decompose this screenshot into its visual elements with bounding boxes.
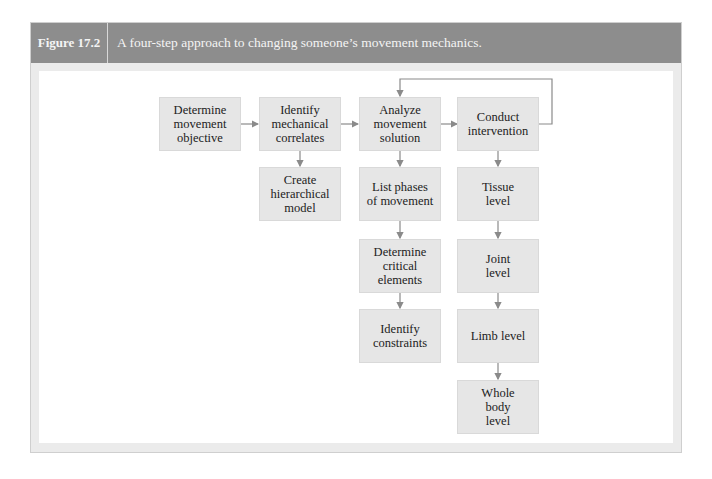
node-whole-body-level: Wholebodylevel	[458, 381, 538, 433]
node-conduct-intervention: Conductintervention	[458, 98, 538, 150]
node-create-hierarchical-model: Createhierarchicalmodel	[260, 168, 340, 220]
node-list-phases-of-movement: List phasesof movement	[360, 168, 440, 220]
node-tissue-level: Tissuelevel	[458, 168, 538, 220]
node-identify-mechanical-correlates: Identifymechanicalcorrelates	[260, 98, 340, 150]
node-identify-constraints: Identifyconstraints	[360, 310, 440, 362]
node-joint-level: Jointlevel	[458, 240, 538, 292]
node-analyze-movement-solution: Analyzemovementsolution	[360, 98, 440, 150]
node-limb-level: Limb level	[458, 310, 538, 362]
node-determine-critical-elements: Determinecriticalelements	[360, 240, 440, 292]
diagram-connectors	[0, 0, 712, 479]
node-determine-movement-objective: Determinemovementobjective	[160, 98, 240, 150]
